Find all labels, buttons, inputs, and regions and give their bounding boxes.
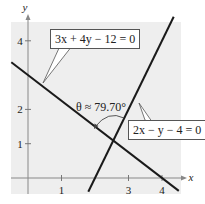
callout-line1-equation: 3x + 4y − 12 = 0 [50,29,140,49]
x-axis-arrow-icon [181,176,187,181]
callout-line2-equation: 2x − y − 4 = 0 [128,120,205,140]
y-axis-label: y [22,1,28,13]
y-axis-arrow-icon [26,14,31,20]
angle-theta-label: θ ≈ 79.70° [76,100,126,115]
y-tick-label-2: 2 [17,103,23,115]
x-tick-label-3: 3 [126,184,132,196]
equation-line2: 2x − y − 4 = 0 [133,123,201,137]
x-axis-label: x [188,171,194,183]
x-tick-label-1: 1 [59,184,65,196]
y-tick-label-4: 4 [17,35,23,47]
diagram-figure: 1 3 4 1 2 4 x y 3x + 4y − 12 = 0 2x − y … [0,0,205,204]
equation-line1: 3x + 4y − 12 = 0 [55,32,135,46]
x-tick-label-4: 4 [159,184,165,196]
y-tick-label-1: 1 [17,138,23,150]
